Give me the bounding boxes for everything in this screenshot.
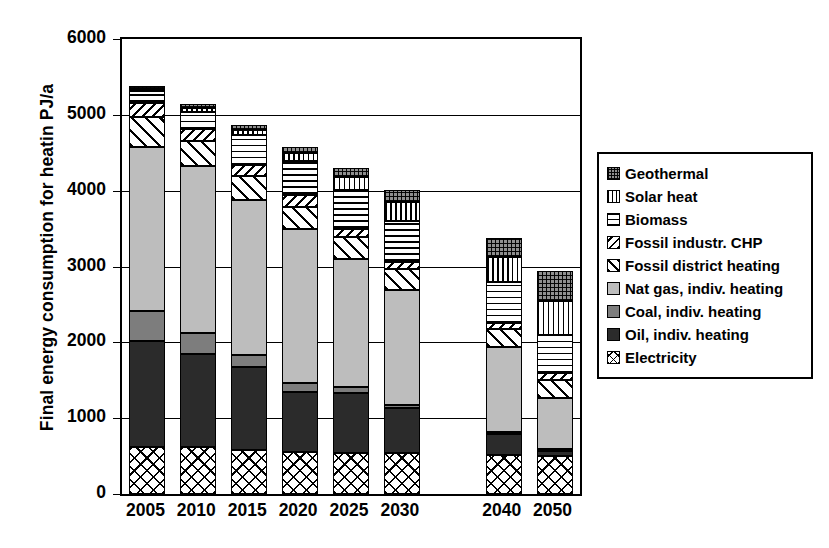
legend-swatch-icon <box>607 282 620 295</box>
y-tick-mark <box>113 267 120 268</box>
bar-segment <box>486 329 522 347</box>
legend-label: Geothermal <box>625 166 708 181</box>
legend-swatch-icon <box>607 259 620 272</box>
legend-item: Solar heat <box>607 185 805 208</box>
bar-segment <box>129 117 165 147</box>
legend-swatch-icon <box>607 236 620 249</box>
bar-segment <box>537 373 573 379</box>
bar-segment <box>384 190 420 202</box>
bar-segment <box>129 86 165 89</box>
bar-segment <box>180 104 216 108</box>
y-tick-label: 0 <box>36 482 106 503</box>
legend-item: Oil, indiv. heating <box>607 323 805 346</box>
bar-segment <box>333 177 369 190</box>
x-tick-label: 2015 <box>228 500 267 521</box>
bar-segment <box>486 432 522 434</box>
bar-2005 <box>129 39 165 494</box>
legend-label: Fossil industr. CHP <box>625 235 763 250</box>
y-tick-mark <box>113 191 120 192</box>
bar-segment <box>180 354 216 447</box>
bar-segment <box>231 130 267 135</box>
bar-segment <box>486 282 522 322</box>
bar-segment <box>537 301 573 334</box>
stacked-bar-chart: Final energy consumption for heatin PJ/a… <box>0 0 829 548</box>
bar-segment <box>282 161 318 195</box>
legend-swatch-icon <box>607 328 620 341</box>
bar-2050 <box>537 39 573 494</box>
bar-segment <box>486 238 522 256</box>
y-tick-mark <box>113 494 120 495</box>
bar-segment <box>180 166 216 333</box>
bar-2010 <box>180 39 216 494</box>
bar-segment <box>180 141 216 166</box>
legend-item: Electricity <box>607 346 805 369</box>
bar-2040 <box>486 39 522 494</box>
x-tick-label: 2030 <box>380 500 419 521</box>
x-tick-label: 2020 <box>279 500 318 521</box>
bar-segment <box>486 434 522 454</box>
legend-label: Biomass <box>625 212 688 227</box>
bar-segment <box>333 190 369 229</box>
y-tick-label: 6000 <box>36 27 106 48</box>
bar-segment <box>129 447 165 494</box>
bar-segment <box>384 453 420 494</box>
y-tick-mark <box>113 418 120 419</box>
bar-segment <box>537 451 573 456</box>
bar-segment <box>129 147 165 312</box>
y-tick-label: 3000 <box>36 254 106 275</box>
y-tick-label: 1000 <box>36 406 106 427</box>
bar-segment <box>384 408 420 454</box>
legend-swatch-icon <box>607 305 620 318</box>
bar-segment <box>486 455 522 494</box>
bar-segment <box>231 450 267 494</box>
bar-segment <box>129 91 165 104</box>
x-tick-label: 2050 <box>533 500 572 521</box>
bar-segment <box>537 335 573 374</box>
bar-segment <box>384 262 420 269</box>
legend-label: Coal, indiv. heating <box>625 304 761 319</box>
legend-label: Oil, indiv. heating <box>625 327 749 342</box>
legend-label: Fossil district heating <box>625 258 780 273</box>
y-tick-mark <box>113 115 120 116</box>
bar-segment <box>282 392 318 452</box>
bar-segment <box>537 271 573 301</box>
bar-segment <box>231 200 267 355</box>
legend-item: Biomass <box>607 208 805 231</box>
y-tick-label: 2000 <box>36 330 106 351</box>
bar-2030 <box>384 39 420 494</box>
bar-segment <box>333 237 369 259</box>
legend-item: Geothermal <box>607 162 805 185</box>
bar-segment <box>282 147 318 153</box>
legend-item: Coal, indiv. heating <box>607 300 805 323</box>
y-tick-label: 4000 <box>36 178 106 199</box>
legend-label: Solar heat <box>625 189 698 204</box>
bar-segment <box>333 387 369 392</box>
bar-segment <box>486 323 522 329</box>
bar-2020 <box>282 39 318 494</box>
bar-segment <box>129 311 165 341</box>
x-tick-label: 2005 <box>126 500 165 521</box>
y-tick-mark <box>113 39 120 40</box>
bar-segment <box>486 347 522 432</box>
bar-segment <box>384 405 420 408</box>
bar-segment <box>282 153 318 161</box>
bar-segment <box>231 355 267 367</box>
legend-swatch-icon <box>607 213 620 226</box>
bar-segment <box>282 452 318 494</box>
legend-label: Nat gas, indiv. heating <box>625 281 783 296</box>
bar-segment <box>384 290 420 405</box>
bar-segment <box>282 207 318 229</box>
bar-segment <box>537 398 573 450</box>
legend: GeothermalSolar heatBiomassFossil indust… <box>597 152 813 379</box>
bar-segment <box>231 176 267 200</box>
legend-swatch-icon <box>607 167 620 180</box>
bar-segment <box>384 221 420 262</box>
legend-item: Nat gas, indiv. heating <box>607 277 805 300</box>
bar-segment <box>333 168 369 176</box>
bar-2025 <box>333 39 369 494</box>
bar-segment <box>180 333 216 353</box>
bar-segment <box>282 195 318 206</box>
bar-segment <box>129 341 165 447</box>
legend-swatch-icon <box>607 351 620 364</box>
bar-segment <box>333 453 369 494</box>
